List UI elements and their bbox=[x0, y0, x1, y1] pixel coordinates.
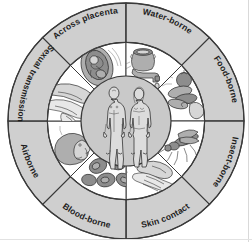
page-bottom-border bbox=[0, 239, 252, 240]
diagram-canvas: Across placenta Water-borne Food-borne I… bbox=[0, 0, 252, 242]
transmission-wheel: Across placenta Water-borne Food-borne I… bbox=[0, 0, 252, 242]
page-right-border bbox=[248, 0, 249, 242]
